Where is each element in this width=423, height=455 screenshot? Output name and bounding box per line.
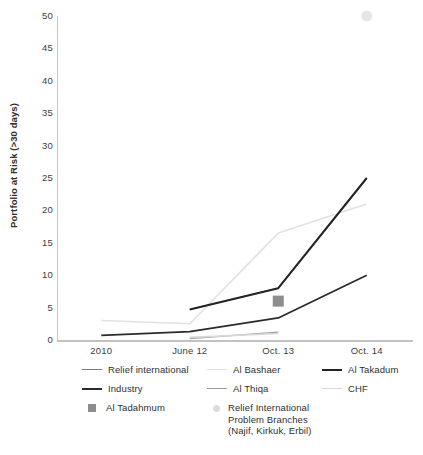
legend-item[interactable]: Relief international — [82, 364, 189, 376]
legend-dot-swatch — [213, 405, 220, 412]
series-line — [190, 334, 279, 338]
series-dot-marker — [361, 11, 372, 22]
legend-item-label: Al Takadum — [348, 364, 398, 376]
y-axis-tick-label: 50 — [7, 11, 53, 21]
legend-item-label: Industry — [108, 383, 143, 395]
x-axis-tick-label: 2010 — [56, 345, 146, 357]
y-axis-tick-label: 10 — [7, 270, 53, 280]
x-axis-tick-label: June 12 — [145, 345, 235, 357]
legend-line-swatch — [322, 388, 342, 389]
legend-square-swatch — [88, 404, 96, 412]
legend-item-label: Al Thiqa — [233, 383, 268, 395]
chart-legend: Relief internationalAl BashaerAl Takadum… — [57, 364, 423, 452]
legend-item-label: Relief International Problem Branches (N… — [228, 402, 312, 437]
legend-item[interactable]: Al Tadahmum — [82, 402, 165, 414]
legend-item-label: Al Bashaer — [233, 364, 280, 376]
plot-area — [57, 16, 411, 340]
series-line — [101, 204, 367, 324]
legend-line-swatch — [82, 369, 102, 370]
legend-item-label: Al Tadahmum — [106, 402, 165, 414]
y-axis-tick-group: 50454035302520151050 — [0, 0, 53, 455]
series-line — [190, 178, 367, 310]
chart-container: Portfolio at Risk (>30 days) 50454035302… — [0, 0, 423, 455]
legend-item[interactable]: CHF — [322, 383, 368, 395]
y-axis-tick-label: 0 — [7, 335, 53, 345]
y-axis-tick-label: 5 — [7, 303, 53, 313]
series-line — [190, 178, 367, 310]
y-axis-tick-label: 20 — [7, 205, 53, 215]
series-svg — [57, 16, 411, 340]
series-square-marker — [273, 296, 284, 307]
series-line — [101, 275, 367, 335]
y-axis-tick-label: 35 — [7, 108, 53, 118]
legend-item[interactable]: Relief International Problem Branches (N… — [207, 402, 312, 437]
y-axis-tick-label: 45 — [7, 43, 53, 53]
y-axis-tick-label: 30 — [7, 141, 53, 151]
legend-line-swatch — [207, 388, 227, 389]
legend-line-swatch — [82, 388, 102, 390]
y-axis-tick-label: 25 — [7, 173, 53, 183]
legend-item[interactable]: Al Bashaer — [207, 364, 280, 376]
legend-item-label: CHF — [348, 383, 368, 395]
y-axis-tick-label: 15 — [7, 238, 53, 248]
legend-item[interactable]: Al Thiqa — [207, 383, 268, 395]
legend-line-swatch — [207, 369, 227, 370]
x-axis-line — [57, 340, 413, 342]
legend-line-swatch — [322, 369, 342, 371]
x-axis-tick-label: Oct. 13 — [233, 345, 323, 357]
legend-item-label: Relief international — [108, 364, 189, 376]
legend-item[interactable]: Industry — [82, 383, 143, 395]
y-axis-tick-label: 40 — [7, 76, 53, 86]
x-axis-tick-label: Oct. 14 — [322, 345, 412, 357]
legend-item[interactable]: Al Takadum — [322, 364, 398, 376]
